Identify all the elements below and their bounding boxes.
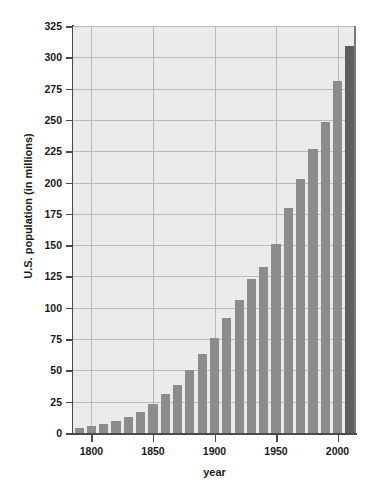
y-tick-mark bbox=[66, 245, 73, 247]
x-tick-mark bbox=[215, 435, 217, 442]
bar bbox=[284, 208, 293, 433]
gridline-horizontal bbox=[73, 26, 354, 27]
x-tick-label: 1900 bbox=[203, 445, 226, 457]
y-tick-mark bbox=[66, 120, 73, 122]
gridline-horizontal bbox=[73, 57, 354, 58]
y-tick-mark bbox=[66, 214, 73, 216]
bar bbox=[210, 338, 219, 433]
bar bbox=[345, 46, 354, 433]
plot-area bbox=[73, 26, 356, 433]
y-tick-mark bbox=[66, 339, 73, 341]
y-tick-mark bbox=[66, 370, 73, 372]
bar bbox=[99, 424, 108, 433]
y-tick-label: 225 bbox=[0, 146, 62, 156]
x-tick-mark bbox=[153, 435, 155, 442]
bar bbox=[247, 279, 256, 433]
bar bbox=[161, 394, 170, 433]
bar bbox=[148, 404, 157, 433]
y-tick-mark bbox=[66, 276, 73, 278]
x-axis-title: year bbox=[73, 466, 356, 478]
y-tick-label: 300 bbox=[0, 52, 62, 62]
bar bbox=[271, 244, 280, 433]
x-tick-label: 1800 bbox=[80, 445, 103, 457]
y-tick-mark bbox=[66, 26, 73, 28]
gridline-vertical bbox=[91, 26, 92, 433]
x-tick-mark bbox=[91, 435, 93, 442]
y-tick-label: 175 bbox=[0, 209, 62, 219]
y-tick-mark bbox=[66, 89, 73, 91]
x-axis-line bbox=[72, 433, 357, 435]
bar bbox=[124, 417, 133, 433]
bar bbox=[308, 149, 317, 433]
bar bbox=[173, 385, 182, 433]
bar bbox=[185, 370, 194, 433]
bar bbox=[198, 354, 207, 433]
y-tick-label: 100 bbox=[0, 303, 62, 313]
y-tick-mark bbox=[66, 402, 73, 404]
y-tick-label: 275 bbox=[0, 84, 62, 94]
y-tick-mark bbox=[66, 57, 73, 59]
y-tick-label: 150 bbox=[0, 240, 62, 250]
y-tick-label: 125 bbox=[0, 271, 62, 281]
y-tick-label: 25 bbox=[0, 397, 62, 407]
y-tick-label: 325 bbox=[0, 21, 62, 31]
x-tick-label: 2000 bbox=[326, 445, 349, 457]
bar bbox=[321, 122, 330, 433]
bar bbox=[259, 267, 268, 433]
y-tick-label: 75 bbox=[0, 334, 62, 344]
population-bar-chart: U.S. population (in millions) 0255075100… bbox=[0, 0, 378, 501]
gridline-horizontal bbox=[73, 89, 354, 90]
x-tick-mark bbox=[276, 435, 278, 442]
bar bbox=[136, 412, 145, 433]
bar bbox=[222, 318, 231, 433]
y-tick-mark bbox=[66, 308, 73, 310]
bar bbox=[111, 421, 120, 433]
y-tick-label: 0 bbox=[0, 428, 62, 438]
x-tick-label: 1950 bbox=[264, 445, 287, 457]
bar bbox=[87, 426, 96, 433]
gridline-vertical bbox=[153, 26, 154, 433]
bar bbox=[333, 81, 342, 433]
y-tick-mark bbox=[66, 183, 73, 185]
y-tick-label: 50 bbox=[0, 365, 62, 375]
x-tick-mark bbox=[338, 435, 340, 442]
x-tick-label: 1850 bbox=[141, 445, 164, 457]
bar bbox=[296, 179, 305, 433]
bar bbox=[235, 300, 244, 433]
y-tick-label: 200 bbox=[0, 178, 62, 188]
gridline-horizontal bbox=[73, 120, 354, 121]
y-tick-mark bbox=[66, 151, 73, 153]
y-tick-label: 250 bbox=[0, 115, 62, 125]
